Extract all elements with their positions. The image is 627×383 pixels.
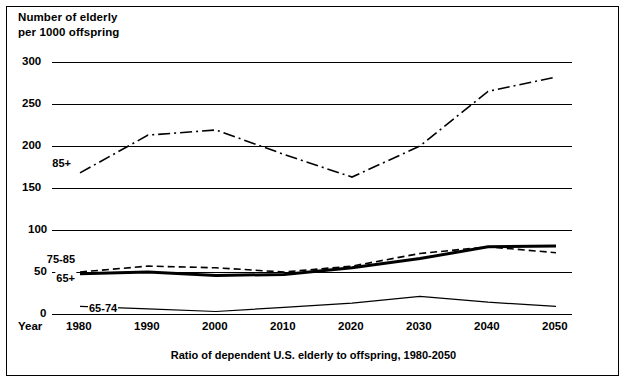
series-lines <box>52 62 572 314</box>
x-axis-title: Year <box>18 320 42 332</box>
series-label-75-85: 75-85 <box>46 253 76 265</box>
series-label-65-74: 65-74 <box>88 302 118 314</box>
ytick-200: 200 <box>22 139 41 151</box>
ytick-250: 250 <box>22 97 41 109</box>
series-label-85plus: 85+ <box>51 157 72 169</box>
xtick-2030: 2030 <box>406 320 432 332</box>
chart-figure: Number of elderly per 1000 offspring 85+… <box>0 0 627 383</box>
x-axis-line <box>52 314 572 315</box>
ytick-100: 100 <box>28 223 47 235</box>
ytick-50: 50 <box>34 265 47 277</box>
ytick-0: 0 <box>40 307 46 319</box>
xtick-2040: 2040 <box>474 320 500 332</box>
xtick-1990: 1990 <box>134 320 160 332</box>
y-axis-title-line1: Number of elderly <box>18 10 120 25</box>
ytick-300: 300 <box>22 55 41 67</box>
series-85plus-line <box>80 77 556 177</box>
xtick-2000: 2000 <box>202 320 228 332</box>
xtick-2010: 2010 <box>270 320 296 332</box>
xtick-2050: 2050 <box>542 320 568 332</box>
xtick-1980: 1980 <box>66 320 92 332</box>
y-axis-title-line2: per 1000 offspring <box>18 25 120 40</box>
series-75-85-line <box>80 247 556 272</box>
xtick-2020: 2020 <box>338 320 364 332</box>
series-65plus-line <box>80 246 556 275</box>
y-axis-title: Number of elderly per 1000 offspring <box>18 10 120 40</box>
series-label-65plus: 65+ <box>55 272 76 284</box>
ytick-150: 150 <box>22 181 41 193</box>
plot-area: 85+ 75-85 65+ 65-74 <box>52 62 572 314</box>
series-65-74-line <box>80 296 556 311</box>
chart-caption: Ratio of dependent U.S. elderly to offsp… <box>0 349 627 361</box>
